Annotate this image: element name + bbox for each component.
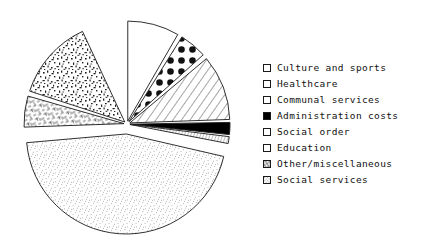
legend-swatch-icon — [263, 64, 271, 72]
pie-chart-figure: Culture and sports Healthcare — [0, 0, 425, 244]
legend-item[interactable]: Communal services — [263, 92, 423, 108]
chart-legend: Culture and sports Healthcare — [263, 60, 423, 188]
legend-swatch-icon — [263, 96, 271, 104]
legend-item-label: Social services — [277, 175, 368, 185]
legend-item-label: Culture and sports — [277, 63, 386, 73]
pie-chart-graphic — [0, 0, 250, 244]
pie-slices-group — [24, 21, 230, 234]
legend-item[interactable]: Other/miscellaneous — [263, 156, 423, 172]
legend-swatch-icon — [263, 176, 271, 184]
legend-item[interactable]: Education — [263, 140, 423, 156]
legend-item[interactable]: Social services — [263, 172, 423, 188]
legend-item-label: Other/miscellaneous — [277, 159, 392, 169]
legend-swatch-icon — [263, 80, 271, 88]
legend-item-label: Administration costs — [277, 111, 398, 121]
pie-slice[interactable] — [27, 134, 224, 234]
legend-item[interactable]: Culture and sports — [263, 60, 423, 76]
legend-item-label: Communal services — [277, 95, 380, 105]
legend-item-label: Healthcare — [277, 79, 338, 89]
legend-swatch-icon — [263, 160, 271, 168]
legend-swatch-icon — [263, 144, 271, 152]
legend-swatch-icon — [263, 112, 271, 120]
legend-item[interactable]: Administration costs — [263, 108, 423, 124]
legend-swatch-icon — [263, 128, 271, 136]
legend-item[interactable]: Social order — [263, 124, 423, 140]
legend-item-label: Education — [277, 143, 332, 153]
legend-item-label: Social order — [277, 127, 350, 137]
legend-item[interactable]: Healthcare — [263, 76, 423, 92]
